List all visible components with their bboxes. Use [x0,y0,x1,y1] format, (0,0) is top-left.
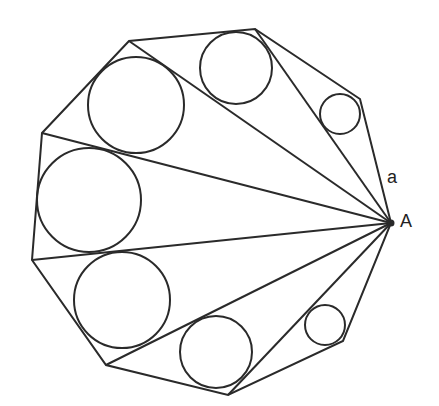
incircle [180,316,252,388]
incircle [200,32,272,104]
incircle [320,94,360,134]
incircle [74,252,170,348]
diagonal-line [106,223,391,365]
diagonal-line [42,133,391,223]
incircle [88,57,184,153]
incircle [37,148,141,252]
nonagon-diagram [0,0,439,406]
incircle [305,305,345,345]
diagonal-line [32,223,391,260]
vertex-label-a: A [400,211,412,232]
vertex-a-point [389,221,394,226]
side-label-a: a [387,167,397,188]
diagonal-line [228,223,391,395]
